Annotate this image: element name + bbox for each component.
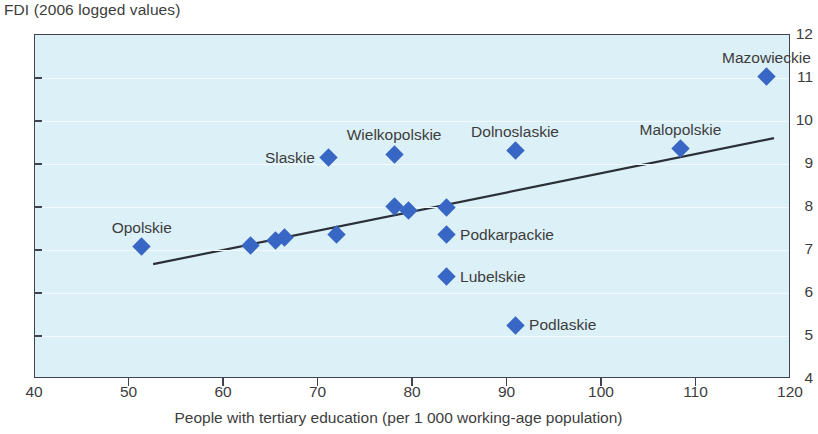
y-axis-tick-label: 7 (787, 241, 813, 257)
y-axis-tick-mark (34, 77, 42, 79)
x-axis-tick-mark (317, 378, 319, 386)
x-axis-tick-mark (128, 378, 130, 386)
gridline (35, 293, 789, 294)
data-point-label: Malopolskie (639, 121, 721, 137)
data-point-label: Podlaskie (529, 318, 596, 334)
x-axis-tick-label: 100 (571, 384, 631, 400)
data-point-label: Slaskie (265, 150, 315, 166)
data-point-label: Mazowieckie (722, 49, 811, 65)
x-axis-tick-mark (222, 378, 224, 386)
gridline (35, 78, 789, 79)
data-point-label: Opolskie (112, 219, 172, 235)
x-axis-tick-label: 110 (666, 384, 726, 400)
x-axis-tick-mark (600, 378, 602, 386)
y-axis-tick-label: 5 (787, 327, 813, 343)
y-axis-tick-label: 10 (787, 112, 813, 128)
x-axis-tick-mark (506, 378, 508, 386)
y-axis-tick-label: 12 (787, 26, 813, 42)
x-axis-title: People with tertiary education (per 1 00… (0, 409, 813, 427)
data-point-label: Wielkopolskie (347, 127, 442, 143)
x-axis-tick-label: 90 (477, 384, 537, 400)
gridline (35, 250, 789, 251)
data-point-label: Podkarpackie (460, 227, 554, 243)
y-axis-tick-mark (34, 292, 42, 294)
x-axis-tick-label: 60 (193, 384, 253, 400)
y-axis-tick-mark (34, 120, 42, 122)
y-axis-tick-label: 9 (787, 155, 813, 171)
y-axis-tick-label: 11 (787, 69, 813, 85)
x-axis-tick-label: 120 (760, 384, 818, 400)
y-axis-tick-mark (34, 335, 42, 337)
x-axis-tick-mark (411, 378, 413, 386)
y-axis-tick-mark (34, 163, 42, 165)
data-point-label: Dolnoslaskie (471, 123, 559, 139)
x-axis-tick-mark (695, 378, 697, 386)
x-axis-tick-label: 50 (99, 384, 159, 400)
plot-area: OpolskieSlaskieWielkopolskiePodkarpackie… (34, 34, 790, 378)
y-axis-tick-mark (34, 249, 42, 251)
y-axis-title: FDI (2006 logged values) (4, 1, 180, 19)
x-axis-tick-label: 80 (382, 384, 442, 400)
x-axis-tick-label: 40 (4, 384, 64, 400)
y-axis-tick-label: 8 (787, 198, 813, 214)
x-axis-tick-label: 70 (288, 384, 348, 400)
gridline (35, 336, 789, 337)
gridline (35, 164, 789, 165)
y-axis-tick-label: 6 (787, 284, 813, 300)
data-point-label: Lubelskie (460, 269, 526, 285)
y-axis-tick-mark (34, 206, 42, 208)
